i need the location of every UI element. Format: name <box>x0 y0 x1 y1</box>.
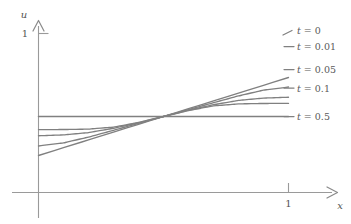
legend-eq-t-0: = <box>301 25 315 36</box>
legend-value-t-01: 0.1 <box>315 83 330 94</box>
legend-eq-t-005: = <box>301 64 315 75</box>
plot-area: u x 1 1 t = 0 t = 0.01 t = 0.05 t <box>0 0 351 224</box>
data-curves-group <box>39 77 289 155</box>
legend-group: t = 0 t = 0.01 t = 0.05 t = 0.1 t = 0.5 <box>297 25 336 122</box>
legend-item-t-001: t = 0.01 <box>297 41 336 52</box>
legend-value-t-001: 0.01 <box>315 41 336 52</box>
legend-eq-t-001: = <box>301 41 315 52</box>
legend-value-t-005: 0.05 <box>315 64 336 75</box>
legend-leader-t0 <box>283 31 292 36</box>
x-tick-label-1: 1 <box>285 198 291 209</box>
legend-item-t-005: t = 0.05 <box>297 64 336 75</box>
axes-group <box>12 26 332 218</box>
x-axis-title: x <box>337 200 343 211</box>
legend-eq-t-05: = <box>301 111 315 122</box>
legend-item-t-01: t = 0.1 <box>297 83 330 94</box>
legend-item-t-05: t = 0.5 <box>297 111 330 122</box>
legend-value-t-0: 0 <box>315 25 321 36</box>
tick-marks <box>39 34 289 193</box>
y-axis-title: u <box>21 9 27 20</box>
legend-item-t-0: t = 0 <box>297 25 321 36</box>
figure-container: u x 1 1 t = 0 t = 0.01 t = 0.05 t <box>0 0 351 224</box>
legend-value-t-05: 0.5 <box>315 111 330 122</box>
legend-eq-t-01: = <box>301 83 315 94</box>
y-tick-label-1: 1 <box>22 28 28 39</box>
